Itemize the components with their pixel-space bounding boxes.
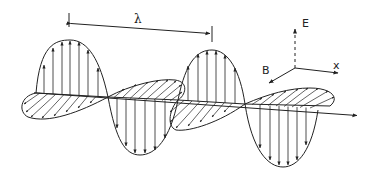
b-field-wave xyxy=(22,80,334,131)
wave-drawing xyxy=(0,0,377,178)
wavelength-label: λ xyxy=(134,13,142,25)
e-axis-label: E xyxy=(302,18,309,29)
em-wave-diagram: λ E B x xyxy=(0,0,377,178)
x-axis-label: x xyxy=(333,60,340,71)
b-axis-label: B xyxy=(262,65,270,76)
coordinate-axes xyxy=(269,29,338,83)
